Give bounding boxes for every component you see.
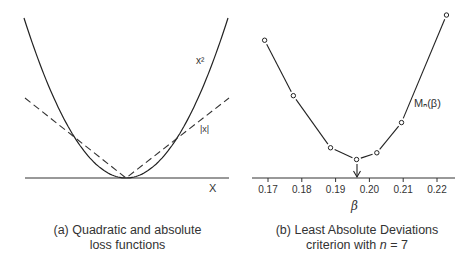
quadratic-curve — [24, 18, 228, 178]
data-point-marker — [375, 151, 379, 155]
data-point-marker — [399, 120, 403, 124]
data-point-marker — [444, 13, 448, 17]
data-point-marker — [354, 157, 358, 161]
series-segment — [335, 150, 353, 158]
x-tick-label: 0.18 — [292, 184, 311, 195]
absolute-label: |x| — [200, 124, 209, 134]
panel-a-caption: (a) Quadratic and absolute loss function… — [20, 223, 235, 253]
series-segment — [296, 99, 328, 144]
x-tick-label: 0.21 — [393, 184, 412, 195]
caption-line-1: (a) Quadratic and absolute — [20, 223, 235, 238]
caption-text: = 7 — [387, 238, 408, 252]
absolute-curve — [25, 98, 229, 178]
series-segment — [361, 154, 373, 158]
data-point-marker — [328, 146, 332, 150]
x-axis-label: X — [209, 182, 216, 194]
series-segment — [380, 126, 399, 149]
caption-line-2: criterion with n = 7 — [252, 238, 462, 253]
caption-variable: n — [380, 238, 387, 252]
x-tick-label: 0.19 — [326, 184, 345, 195]
caption-text: criterion with — [306, 238, 380, 252]
x-tick-label: 0.17 — [258, 184, 277, 195]
caption-line-1: (b) Least Absolute Deviations — [252, 223, 462, 238]
caption-line-2: loss functions — [20, 238, 235, 253]
panel-b-caption: (b) Least Absolute Deviations criterion … — [252, 223, 462, 253]
x-tick-label: 0.20 — [360, 184, 379, 195]
minimum-arrow-icon — [354, 164, 361, 177]
data-point-marker — [262, 38, 266, 42]
data-point-marker — [291, 93, 295, 97]
quadratic-label: x² — [196, 55, 204, 66]
beta-axis-label: β — [351, 199, 358, 213]
x-tick-label: 0.22 — [427, 184, 446, 195]
panel-a-plot — [24, 18, 229, 178]
series-label: Mₙ(β) — [414, 97, 441, 110]
series-segment — [267, 44, 292, 91]
